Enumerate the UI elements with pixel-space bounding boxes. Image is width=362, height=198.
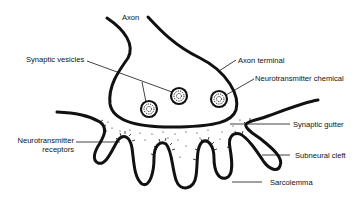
axon-terminal-outline [107,17,237,127]
sarcolemma-outline [57,100,318,188]
synaptic-vesicle [141,101,157,117]
label-axon: Axon [122,13,139,22]
label-sarcolemma: Sarcolemma [270,178,313,187]
label-neurotransmitter-chemical: Neurotransmitter chemical [255,74,344,83]
label-axon-terminal: Axon terminal [238,56,284,65]
label-receptors-line1: Neurotransmitter [14,136,74,145]
label-neurotransmitter-receptors: Neurotransmitter receptors [14,136,74,154]
synaptic-vesicle [211,91,227,107]
label-subneural-cleft: Subneural cleft [295,151,346,160]
label-receptors-line2: receptors [14,145,74,154]
synaptic-vesicle [171,88,187,104]
label-synaptic-gutter: Synaptic gutter [293,120,344,129]
label-synaptic-vesicles: Synaptic vesicles [26,55,84,64]
neuromuscular-junction-diagram [0,0,362,198]
neurotransmitter-receptors [100,118,250,160]
